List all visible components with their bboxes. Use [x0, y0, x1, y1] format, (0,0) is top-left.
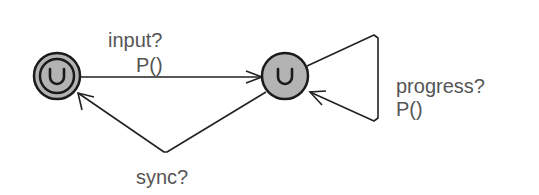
edge-sync[interactable] — [78, 92, 266, 152]
edge-progress-line — [307, 35, 378, 121]
edge-input-sync-label: input? — [108, 29, 163, 51]
state-initial[interactable] — [34, 53, 80, 99]
state-target[interactable] — [262, 53, 308, 99]
state-ring — [262, 53, 308, 99]
automaton-diagram: input? P() sync? progress? P() — [0, 0, 539, 195]
edge-progress-loop[interactable] — [307, 35, 378, 121]
edge-sync-label: sync? — [136, 166, 188, 188]
edge-input[interactable] — [80, 71, 262, 83]
edge-input-update-label: P() — [136, 54, 163, 76]
edge-progress-update-label: P() — [396, 98, 423, 120]
edge-sync-line — [78, 92, 266, 152]
edge-progress-sync-label: progress? — [396, 75, 485, 97]
